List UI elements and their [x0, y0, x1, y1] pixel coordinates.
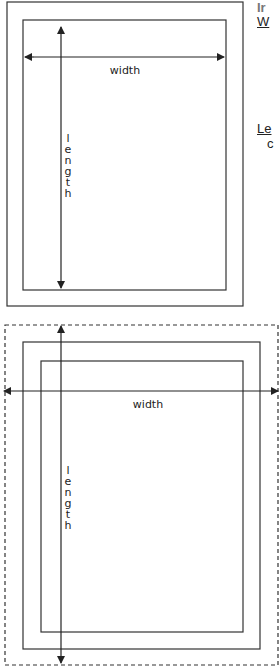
- width-label: width: [110, 64, 140, 77]
- length-description: c: [267, 136, 274, 151]
- length-label: length: [65, 132, 72, 200]
- length-label: length: [65, 464, 72, 532]
- width-term: W: [257, 14, 269, 29]
- svg-text:h: h: [65, 187, 72, 200]
- dashed-boundary: [5, 325, 278, 665]
- top-figure: width length: [7, 2, 243, 306]
- bottom-figure: width length: [4, 325, 278, 665]
- width-label: width: [133, 398, 163, 411]
- inner-rectangle: [23, 20, 226, 290]
- outer-rectangle: [7, 2, 243, 306]
- section-heading: Ir: [257, 0, 266, 15]
- length-term: Le: [257, 121, 271, 136]
- outer-rectangle: [23, 342, 260, 649]
- diagram-canvas: width length width length: [0, 0, 279, 666]
- svg-text:h: h: [65, 519, 72, 532]
